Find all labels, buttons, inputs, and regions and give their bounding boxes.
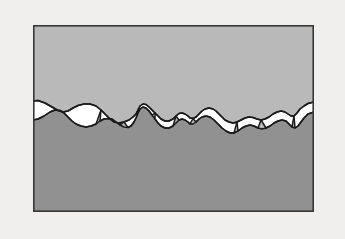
interface-diagram-svg [0,0,345,239]
framed-image-content [33,25,314,212]
figure-canvas [0,0,345,239]
